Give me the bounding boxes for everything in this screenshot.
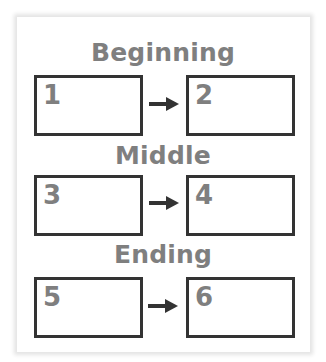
sequence-box-1: 1 [34, 75, 143, 136]
stage-heading-beginning: Beginning [0, 38, 326, 68]
box-number: 3 [43, 180, 61, 210]
stage-heading-ending: Ending [0, 240, 326, 270]
arrow-right-icon [149, 97, 179, 111]
box-number: 2 [195, 80, 213, 110]
stage-heading-middle: Middle [0, 141, 326, 171]
sequence-box-2: 2 [186, 75, 295, 136]
box-number: 6 [195, 282, 213, 312]
box-number: 4 [195, 180, 213, 210]
sequence-box-6: 6 [186, 277, 295, 338]
sequence-box-4: 4 [186, 175, 295, 236]
sequence-box-5: 5 [34, 277, 143, 338]
box-number: 1 [43, 80, 61, 110]
sequence-box-3: 3 [34, 175, 143, 236]
arrow-right-icon [149, 196, 179, 210]
box-number: 5 [43, 282, 61, 312]
arrow-right-icon [148, 299, 178, 313]
